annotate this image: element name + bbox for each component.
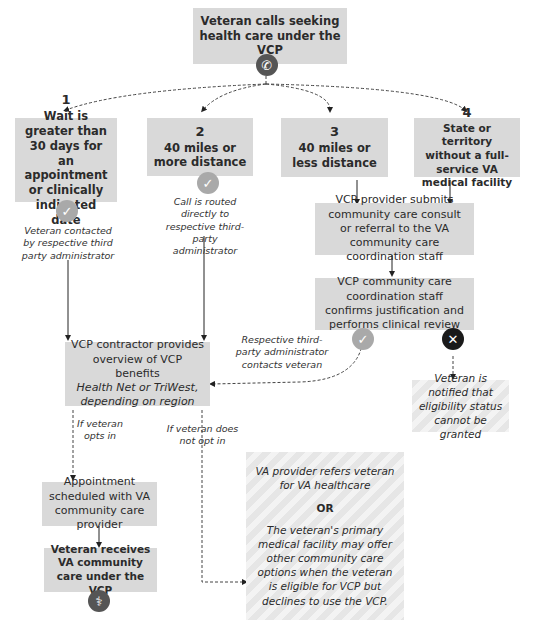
criterion-1-box: 1 Wait is greater than 30 days for an ap… — [15, 118, 117, 202]
criterion-2-text: 40 miles or more distance — [153, 141, 247, 171]
appointment-text: Appointment scheduled with VA community … — [48, 475, 151, 532]
criterion-3-box: 3 40 miles or less distance — [281, 118, 388, 177]
criterion-2-number: 2 — [195, 124, 204, 141]
criterion-4-box: 4 State or territory without a full-serv… — [414, 118, 520, 177]
opt-out-label: If veteran does not opt in — [160, 423, 245, 448]
x-icon: ✕ — [442, 328, 464, 350]
opt-in-label: If veteran opts in — [76, 418, 124, 443]
check-icon: ✓ — [352, 328, 374, 350]
criterion-4-text: State or territory without a full-servic… — [420, 122, 514, 190]
coordination-review-text: VCP community care coordination staff co… — [321, 275, 468, 332]
alternatives-first: VA provider refers veteran for VA health… — [252, 464, 398, 492]
provider-submits-text: VCP provider submits community care cons… — [321, 193, 468, 264]
check-icon: ✓ — [197, 172, 219, 194]
criterion-2-box: 2 40 miles or more distance — [147, 118, 253, 176]
criterion-3-text: 40 miles or less distance — [287, 141, 382, 171]
receives-care-box: Veteran receives VA community care under… — [44, 548, 157, 592]
denied-text: Veteran is notified that eligibility sta… — [418, 371, 503, 442]
stethoscope-icon: ⚕ — [88, 590, 110, 612]
criterion-2-note: Call is routed directly to respective th… — [160, 196, 250, 258]
contractor-text: VCP contractor provides overview of VCP … — [71, 338, 204, 381]
contractor-box: VCP contractor provides overview of VCP … — [65, 342, 210, 406]
appointment-box: Appointment scheduled with VA community … — [42, 482, 157, 526]
denied-box: Veteran is notified that eligibility sta… — [412, 380, 509, 432]
provider-submits-box: VCP provider submits community care cons… — [315, 203, 474, 255]
contractor-subtext: Health Net or TriWest, depending on regi… — [71, 381, 204, 410]
start-text: Veteran calls seeking health care under … — [199, 14, 341, 59]
criterion-1-note: Veteran contacted by respective third pa… — [18, 225, 118, 262]
criterion-3-number: 3 — [330, 124, 339, 141]
alternatives-or: OR — [316, 501, 333, 515]
criterion-1-number: 1 — [61, 92, 70, 109]
criterion-4-number: 4 — [462, 105, 471, 122]
alternatives-second: The veteran's primary medical facility m… — [252, 523, 398, 608]
approved-note: Respective third-party administrator con… — [232, 334, 332, 371]
receives-care-text: Veteran receives VA community care under… — [50, 543, 151, 598]
check-icon: ✓ — [56, 200, 78, 222]
phone-icon: ✆ — [256, 54, 278, 76]
coordination-review-box: VCP community care coordination staff co… — [315, 278, 474, 330]
alternatives-box: VA provider refers veteran for VA health… — [246, 452, 404, 620]
